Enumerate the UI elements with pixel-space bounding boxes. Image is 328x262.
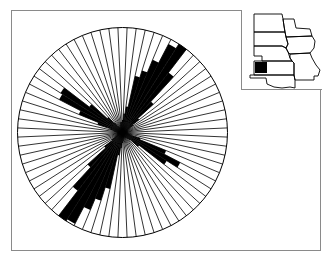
rose-spokes xyxy=(18,28,228,238)
state-mn xyxy=(283,19,312,37)
state-ok xyxy=(250,75,295,88)
study-area-highlight xyxy=(255,62,267,73)
state-mo xyxy=(290,53,320,80)
locator-map-inset xyxy=(241,10,322,90)
state-ia xyxy=(286,36,315,54)
state-nd xyxy=(254,14,285,32)
locator-map xyxy=(242,10,323,90)
rose-spoke xyxy=(29,84,122,132)
rose-spoke xyxy=(123,133,216,181)
